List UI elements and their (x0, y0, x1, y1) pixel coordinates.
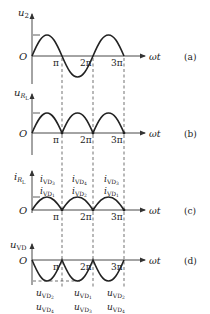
label-bottom-3: iVD1 (104, 186, 119, 198)
label-bottom-2: iVD2 (72, 186, 87, 198)
rectified-current-waveform (32, 197, 124, 210)
tick-3pi: 3π (111, 135, 123, 145)
label-bottom-3: uVD4 (107, 302, 125, 314)
tick-pi: π (53, 135, 59, 145)
panel-tag: (b) (184, 129, 197, 139)
tick-2pi: 2π (80, 262, 92, 272)
x-axis-label: ωt (149, 128, 161, 139)
panel-tag: (a) (184, 52, 196, 62)
label-top-2: iVD4 (72, 174, 87, 186)
label-top-3: uVD2 (107, 288, 125, 300)
tick-2pi: 2π (80, 212, 92, 222)
panel-a: u2 O π 2π 3π ωt (a) (18, 7, 196, 84)
rectifier-waveform-diagram: u2 O π 2π 3π ωt (a) uRL O π 2π 3π ωt (b)… (0, 0, 210, 314)
tick-pi: π (53, 212, 59, 222)
rectified-voltage-waveform (32, 113, 124, 133)
label-top-2: uVD1 (74, 288, 92, 300)
label-bottom-1: iVD1 (40, 186, 55, 198)
x-axis-label: ωt (149, 51, 161, 62)
panel-c: iRL iVD3 iVD1 iVD4 iVD2 iVD3 iVD1 O π 2π… (14, 171, 196, 222)
tick-3pi: 3π (111, 212, 123, 222)
origin-label: O (19, 51, 27, 62)
origin-label: O (19, 205, 27, 216)
x-axis-label: ωt (149, 255, 161, 266)
tick-3pi: 3π (111, 58, 123, 68)
y-axis-label: iRL (14, 171, 26, 185)
label-bottom-2: uVD3 (74, 302, 92, 314)
label-top-3: iVD3 (104, 174, 119, 186)
label-bottom-1: uVD4 (36, 302, 54, 314)
y-axis-label: uVD (10, 239, 26, 252)
tick-2pi: 2π (80, 58, 92, 68)
panel-tag: (c) (184, 206, 196, 216)
y-axis-label: uRL (14, 87, 29, 101)
x-axis-label: ωt (149, 205, 161, 216)
label-top-1: uVD2 (36, 288, 54, 300)
origin-label: O (19, 255, 27, 266)
tick-2pi: 2π (80, 135, 92, 145)
label-top-1: iVD3 (40, 174, 55, 186)
diode-current-labels: iVD3 iVD1 iVD4 iVD2 iVD3 iVD1 (40, 174, 119, 198)
tick-pi: π (53, 262, 59, 272)
dashed-guides (62, 58, 124, 287)
tick-pi: π (53, 58, 59, 68)
tick-3pi: 3π (111, 262, 123, 272)
origin-label: O (19, 128, 27, 139)
y-axis-label: u2 (18, 7, 29, 20)
panel-d: uVD O π 2π 3π ωt (d) uVD2 uVD4 uVD1 uVD3… (10, 239, 197, 314)
panel-tag: (d) (184, 256, 197, 266)
panel-b: uRL O π 2π 3π ωt (b) (14, 87, 197, 155)
diode-voltage-labels: uVD2 uVD4 uVD1 uVD3 uVD2 uVD4 (36, 288, 125, 314)
